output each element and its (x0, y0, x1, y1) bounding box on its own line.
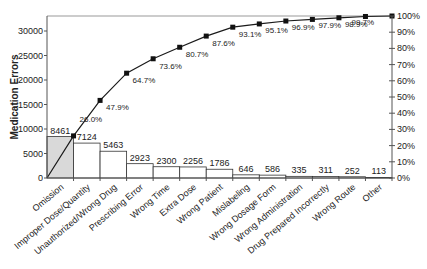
bar-value-label: 7124 (77, 132, 97, 142)
cumulative-marker (71, 133, 76, 138)
cumulative-marker (151, 56, 156, 61)
left-axis-tick-label: 15000 (18, 100, 43, 110)
bar-value-label: 8461 (50, 126, 70, 136)
right-axis-tick-label: 0% (397, 173, 410, 183)
cumulative-percent-label: 99.7% (351, 18, 374, 27)
bar-wrong-patient (206, 169, 233, 178)
right-axis-tick-label: 20% (397, 141, 415, 151)
left-axis-tick-label: 5000 (23, 149, 43, 159)
cumulative-percent-label: 80.7% (186, 50, 209, 59)
bar-extra-dose (180, 167, 207, 178)
right-axis-tick-label: 70% (397, 60, 415, 70)
bar-value-label: 5463 (103, 140, 123, 150)
cumulative-percent-label: 96.9% (292, 23, 315, 32)
right-axis-tick-label: 30% (397, 124, 415, 134)
left-axis-tick-label: 0 (38, 173, 43, 183)
cumulative-percent-label: 93.1% (239, 30, 262, 39)
bar-value-label: 113 (372, 166, 386, 176)
bar-unauthorized-wrong-drug (100, 151, 127, 178)
cumulative-marker (310, 17, 315, 22)
pareto-chart: 8461712454632923230022561786646586335311… (0, 0, 427, 269)
left-axis-tick-label: 20000 (18, 75, 43, 85)
left-axis-tick-label: 10000 (18, 124, 43, 134)
right-axis-tick-label: 80% (397, 43, 415, 53)
cumulative-percent-label: 87.6% (212, 39, 235, 48)
bar-value-label: 646 (239, 164, 254, 174)
bar-value-label: 1786 (209, 158, 229, 168)
cumulative-percent-label: 26.0% (80, 115, 103, 124)
right-axis-tick-label: 10% (397, 157, 415, 167)
cumulative-marker (98, 98, 103, 103)
x-axis-category-label: Other (360, 182, 384, 204)
right-axis-tick-label: 50% (397, 92, 415, 102)
bar-value-label: 2256 (183, 156, 203, 166)
left-axis-tick-label: 25000 (18, 51, 43, 61)
cumulative-marker (283, 19, 288, 24)
cumulative-percent-label: 47.9% (106, 103, 129, 112)
bar-value-label: 2923 (130, 153, 150, 163)
cumulative-marker (177, 45, 182, 50)
bar-value-label: 335 (292, 165, 307, 175)
cumulative-marker (204, 34, 209, 39)
right-axis-tick-label: 90% (397, 27, 415, 37)
right-axis-tick-label: 40% (397, 108, 415, 118)
y-axis-title: Medication Errors (9, 54, 20, 139)
cumulative-marker (336, 15, 341, 20)
bar-improper-dose-quantity (74, 143, 101, 178)
bar-value-label: 586 (265, 164, 280, 174)
cumulative-marker (230, 25, 235, 30)
right-axis-tick-label: 60% (397, 76, 415, 86)
cumulative-percent-label: 95.1% (265, 26, 288, 35)
bar-prescribing-error (127, 164, 154, 178)
x-axis: OmissionImproper Dose/QuantityUnauthoriz… (12, 178, 392, 257)
cumulative-marker (257, 21, 262, 26)
right-axis-tick-label: 100% (397, 11, 420, 21)
cumulative-percent-label: 64.7% (133, 76, 156, 85)
cumulative-marker (124, 71, 129, 76)
bar-value-label: 2300 (156, 156, 176, 166)
bar-wrong-time (153, 167, 180, 178)
left-axis-tick-label: 30000 (18, 26, 43, 36)
cumulative-percent-label: 97.9% (318, 21, 341, 30)
bar-value-label: 311 (318, 165, 332, 175)
cumulative-percent-label: 73.6% (159, 62, 182, 71)
right-y-axis: 0%10%20%30%40%50%60%70%80%90%100% (389, 11, 420, 183)
bar-value-label: 252 (345, 166, 360, 176)
left-y-axis: 050001000015000200002500030000 (18, 16, 47, 183)
